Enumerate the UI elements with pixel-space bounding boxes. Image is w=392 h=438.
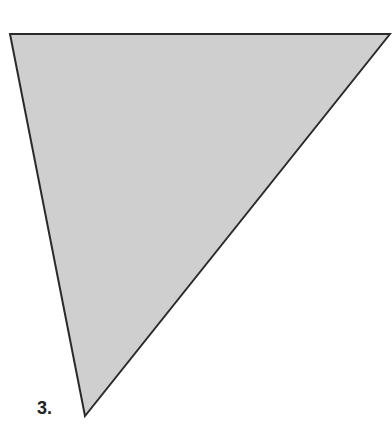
triangle-shape (10, 34, 390, 416)
figure-label: 3. (37, 398, 52, 419)
triangle-figure (0, 0, 392, 438)
